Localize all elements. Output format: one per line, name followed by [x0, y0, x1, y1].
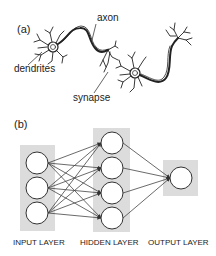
input-layer-label: INPUT LAYER — [13, 238, 65, 247]
output-layer-label: OUTPUT LAYER — [148, 238, 209, 247]
hidden-node — [101, 157, 123, 179]
input-node — [26, 177, 48, 199]
input-node — [26, 202, 48, 224]
hidden-node — [101, 132, 123, 154]
hidden-layer-label: HIDDEN LAYER — [80, 238, 139, 247]
hidden-node — [101, 182, 123, 204]
neural-network-diagram — [0, 0, 216, 256]
hidden-node — [101, 207, 123, 229]
input-node — [26, 152, 48, 174]
output-node — [170, 167, 192, 189]
